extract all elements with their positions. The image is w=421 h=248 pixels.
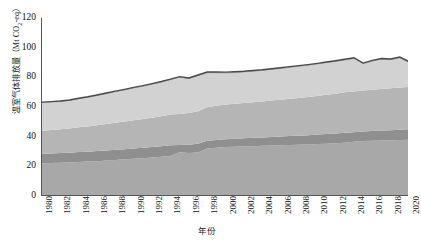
y-tick-label: 40 [14, 132, 36, 142]
y-tick-label: 120 [14, 13, 36, 23]
y-tick-label: 80 [14, 72, 36, 82]
stacked-area-series [42, 18, 408, 196]
y-tick-label: 60 [14, 102, 36, 112]
x-tick-label: 2020 [412, 196, 421, 230]
y-axis-tick-labels: 020406080100120 [0, 0, 36, 248]
x-axis-title: 年份 [0, 224, 413, 236]
y-tick-label: 100 [14, 43, 36, 53]
plot-area [41, 18, 408, 196]
y-tick-label: 20 [14, 161, 36, 171]
y-tick-label: 0 [14, 191, 36, 201]
